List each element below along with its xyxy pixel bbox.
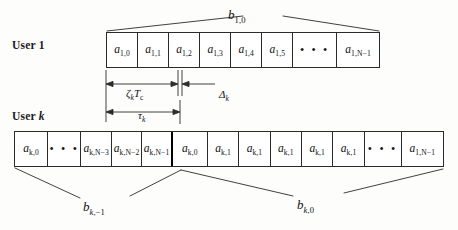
bit-label-subscript: 1,0 xyxy=(235,15,246,25)
ellipsis-dots: • • • xyxy=(300,44,330,56)
chip-cell: a1,4 xyxy=(231,33,262,67)
chip-cell: a1,5 xyxy=(262,33,293,67)
chip-cell-ellipsis: • • • xyxy=(48,132,81,166)
chip-cell: ak,0 xyxy=(173,132,208,166)
measure-subscript-k: k xyxy=(130,93,133,102)
user-1-label: User 1 xyxy=(12,39,45,51)
chip-symbol-subscript: 1,0 xyxy=(120,49,130,58)
chip-cell: ak,N−1 xyxy=(142,132,173,166)
brace-b-k-minus-1-right xyxy=(130,170,181,196)
chip-cell-ellipsis: • • • xyxy=(365,132,402,166)
brace-b-1-0-left xyxy=(107,16,243,31)
chip-cell: a1,2 xyxy=(169,33,200,67)
chip-cell: ak,1 xyxy=(333,132,364,166)
bit-label-b-1-0: b1,0 xyxy=(228,8,246,21)
chip-row-user-1: a1,0 a1,1 a1,2 a1,3 a1,4 a1,5 • • • a1,N… xyxy=(106,32,380,68)
measure-arrow-zeta-k-tc xyxy=(106,81,178,86)
measure-label-tau-k: τk xyxy=(138,110,145,121)
measure-label-delta-k: Δk xyxy=(219,89,229,100)
user-k-label-prefix: User xyxy=(12,110,39,122)
brace-b-k-0-left xyxy=(181,170,293,196)
measure-subscript-k: k xyxy=(142,115,145,124)
chip-cell: ak,1 xyxy=(302,132,333,166)
chip-symbol-subscript: k,N−3 xyxy=(89,148,109,157)
chip-cell: ak,1 xyxy=(208,132,239,166)
chip-symbol-subscript: k,1 xyxy=(315,148,325,157)
user-k-label: User k xyxy=(12,110,45,122)
chip-symbol-subscript: 1,4 xyxy=(244,49,254,58)
chip-symbol-subscript: k,1 xyxy=(346,148,356,157)
chip-symbol-subscript: 1,N−1 xyxy=(415,148,435,157)
bit-label-subscript: k,0 xyxy=(304,205,315,215)
chip-symbol-subscript: k,N−1 xyxy=(150,148,170,157)
chip-symbol-subscript: k,1 xyxy=(252,148,262,157)
chip-row-user-k: ak,0 • • • ak,N−3 ak,N−2 ak,N−1 ak,0 ak,… xyxy=(14,131,444,167)
chip-cell: a1,N−1 xyxy=(402,132,443,166)
bit-label-b-k-0: bk,0 xyxy=(297,198,314,211)
chip-cell: ak,N−3 xyxy=(81,132,111,166)
chip-symbol-subscript: 1,2 xyxy=(182,49,192,58)
brace-b-1-0-right xyxy=(283,16,379,31)
brace-b-k-0-right xyxy=(344,169,443,193)
ellipsis-dots: • • • xyxy=(368,143,398,155)
measure-subscript-c: c xyxy=(140,93,143,102)
chip-symbol-subscript: 1,3 xyxy=(213,49,223,58)
chip-cell: ak,0 xyxy=(15,132,48,166)
user-k-label-index: k xyxy=(39,110,45,122)
measure-label-zeta-k-tc: ζkTc xyxy=(126,88,144,99)
ellipsis-dots: • • • xyxy=(50,143,80,155)
chip-cell-ellipsis: • • • xyxy=(293,33,337,67)
chip-cell: ak,1 xyxy=(271,132,302,166)
chip-symbol-subscript: k,0 xyxy=(188,148,198,157)
chip-symbol-subscript: 1,N−1 xyxy=(351,49,371,58)
chip-cell: a1,3 xyxy=(200,33,231,67)
chip-cell: a1,N−1 xyxy=(337,33,379,67)
chip-symbol-subscript: k,1 xyxy=(284,148,294,157)
chip-symbol-subscript: 1,1 xyxy=(151,49,161,58)
chip-cell: a1,0 xyxy=(107,33,138,67)
bit-label-b-k-minus-1: bk,−1 xyxy=(83,200,105,213)
brace-b-k-minus-1-left xyxy=(15,168,80,198)
chip-symbol-subscript: k,1 xyxy=(221,148,231,157)
chip-cell: a1,1 xyxy=(138,33,169,67)
chip-symbol-subscript: k,N−2 xyxy=(120,148,140,157)
chip-symbol-subscript: 1,5 xyxy=(275,49,285,58)
chip-cell: ak,1 xyxy=(239,132,270,166)
measure-arrow-delta-k xyxy=(182,81,215,86)
bit-label-base: b xyxy=(228,7,235,22)
chip-cell: ak,N−2 xyxy=(112,132,142,166)
chip-symbol-subscript: k,0 xyxy=(29,148,39,157)
user-1-label-index: 1 xyxy=(39,39,45,51)
bit-label-subscript: k,−1 xyxy=(90,207,106,217)
user-1-label-prefix: User xyxy=(12,39,39,51)
measure-subscript-k: k xyxy=(225,94,228,103)
chip-timing-diagram: User 1 User k a1,0 a1,1 a1,2 a1,3 a1,4 a… xyxy=(0,0,458,230)
